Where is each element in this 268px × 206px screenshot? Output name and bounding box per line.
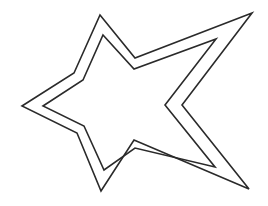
inner-star-outline bbox=[43, 35, 216, 170]
star-drawing-canvas bbox=[0, 0, 268, 206]
star-outline-icon bbox=[0, 0, 268, 206]
outer-star-outline bbox=[22, 13, 252, 191]
